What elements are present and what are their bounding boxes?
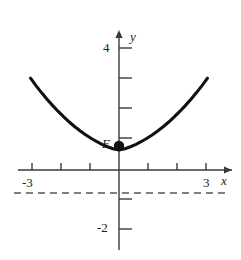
x-tick-label-neg3: -3	[22, 176, 33, 189]
y-axis-label: y	[130, 30, 136, 43]
focus-label: F	[102, 137, 110, 150]
x-tick-label-3: 3	[203, 176, 210, 189]
y-tick-label-neg2: -2	[97, 221, 108, 234]
parabola-plot	[0, 0, 241, 260]
focus-point-marker	[114, 141, 124, 151]
y-axis-arrow-icon	[115, 30, 122, 38]
figure-root: y x 4 -2 -3 3 F	[0, 0, 241, 260]
x-axis-label: x	[221, 174, 227, 187]
y-tick-label-4: 4	[103, 41, 110, 54]
